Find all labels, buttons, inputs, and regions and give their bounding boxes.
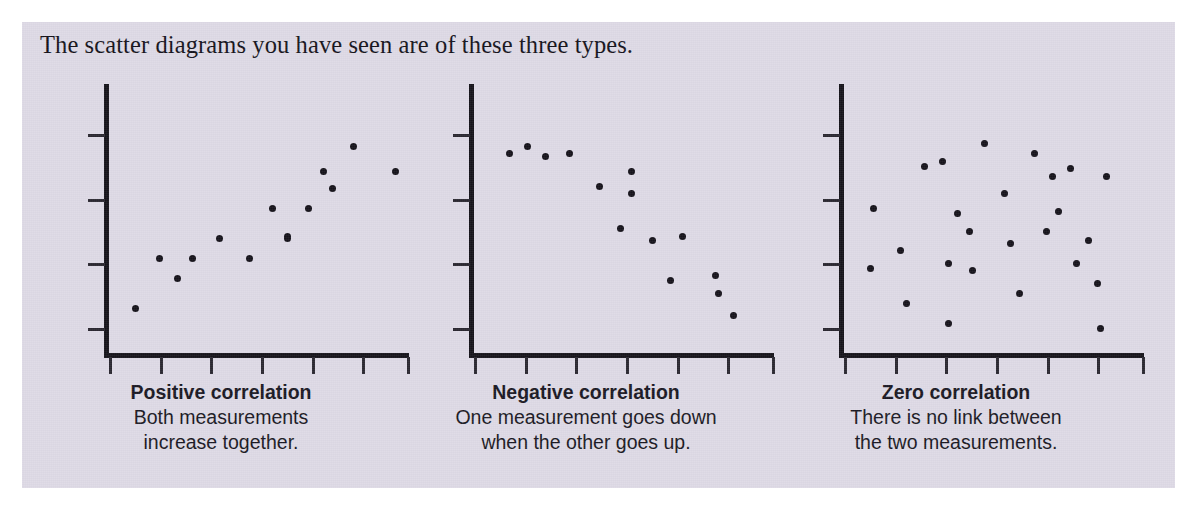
data-point: [596, 183, 603, 190]
data-point: [269, 205, 276, 212]
figure-panel: The scatter diagrams you have seen are o…: [22, 22, 1175, 488]
data-point: [617, 225, 624, 232]
data-point: [730, 312, 737, 319]
data-point: [921, 163, 928, 170]
chart-description-line-2: when the other goes up.: [427, 430, 745, 455]
scatter-plot-negative: [427, 84, 745, 369]
y-axis-tick: [88, 263, 105, 266]
data-point: [1085, 237, 1092, 244]
data-point: [903, 300, 910, 307]
data-point: [1001, 190, 1008, 197]
data-point: [966, 228, 973, 235]
x-axis-tick: [996, 357, 999, 374]
x-axis-tick: [677, 357, 680, 374]
chart-description-line-1: Both measurements: [62, 405, 380, 430]
y-axis: [104, 84, 109, 358]
data-point: [246, 255, 253, 262]
data-point: [542, 153, 549, 160]
data-point: [284, 235, 291, 242]
chart-title: Positive correlation: [62, 380, 380, 405]
x-axis-tick: [1047, 357, 1050, 374]
x-axis-tick: [945, 357, 948, 374]
data-point: [969, 267, 976, 274]
data-point: [679, 233, 686, 240]
data-point: [1016, 290, 1023, 297]
data-point: [524, 143, 531, 150]
scatter-plot-zero: [797, 84, 1115, 369]
y-axis-tick: [88, 328, 105, 331]
data-point: [628, 168, 635, 175]
data-point: [870, 205, 877, 212]
data-point: [320, 168, 327, 175]
x-axis-tick: [626, 357, 629, 374]
data-point: [174, 275, 181, 282]
y-axis-tick: [453, 328, 470, 331]
data-point: [350, 143, 357, 150]
y-axis-tick: [88, 134, 105, 137]
x-axis-tick: [844, 357, 847, 374]
data-point: [189, 255, 196, 262]
chart-block-zero: Zero correlation There is no link betwee…: [797, 84, 1115, 369]
x-axis-tick: [575, 357, 578, 374]
data-point: [156, 255, 163, 262]
data-point: [132, 305, 139, 312]
chart-description-line-1: There is no link between: [797, 405, 1115, 430]
data-point: [305, 205, 312, 212]
x-axis-tick: [1142, 357, 1145, 374]
data-point: [954, 210, 961, 217]
y-axis-tick: [823, 134, 840, 137]
chart-block-negative: Negative correlation One measurement goe…: [427, 84, 745, 369]
chart-title: Zero correlation: [797, 380, 1115, 405]
y-axis-tick: [823, 199, 840, 202]
x-axis-tick: [525, 357, 528, 374]
data-point: [945, 260, 952, 267]
data-point: [1103, 173, 1110, 180]
data-point: [981, 140, 988, 147]
data-point: [628, 190, 635, 197]
chart-block-positive: Positive correlation Both measurements i…: [62, 84, 380, 369]
data-point: [939, 158, 946, 165]
figure-caption: The scatter diagrams you have seen are o…: [40, 31, 633, 59]
data-point: [1055, 208, 1062, 215]
x-axis-tick: [109, 357, 112, 374]
x-axis-tick: [772, 357, 775, 374]
y-axis-tick: [823, 263, 840, 266]
data-point: [867, 265, 874, 272]
data-point: [1031, 150, 1038, 157]
data-point: [329, 185, 336, 192]
data-point: [649, 237, 656, 244]
y-axis-tick: [453, 134, 470, 137]
x-axis-tick: [210, 357, 213, 374]
data-point: [1073, 260, 1080, 267]
data-point: [566, 150, 573, 157]
data-point: [712, 272, 719, 279]
data-point: [1067, 165, 1074, 172]
data-point: [897, 247, 904, 254]
chart-title: Negative correlation: [427, 380, 745, 405]
data-point: [506, 150, 513, 157]
y-axis-tick: [823, 328, 840, 331]
chart-description-line-2: increase together.: [62, 430, 380, 455]
x-axis-tick: [407, 357, 410, 374]
x-axis-tick: [261, 357, 264, 374]
y-axis-tick: [453, 199, 470, 202]
data-point: [1094, 280, 1101, 287]
y-axis-tick: [88, 199, 105, 202]
y-axis-tick: [453, 263, 470, 266]
x-axis-tick: [1097, 357, 1100, 374]
x-axis-tick: [362, 357, 365, 374]
chart-caption-negative: Negative correlation One measurement goe…: [427, 380, 745, 455]
chart-description-line-1: One measurement goes down: [427, 405, 745, 430]
data-point: [715, 290, 722, 297]
data-point: [667, 277, 674, 284]
x-axis-tick: [474, 357, 477, 374]
y-axis: [839, 84, 844, 358]
x-axis-tick: [727, 357, 730, 374]
data-point: [1043, 228, 1050, 235]
chart-description-line-2: the two measurements.: [797, 430, 1115, 455]
data-point: [945, 320, 952, 327]
data-point: [1049, 173, 1056, 180]
chart-caption-positive: Positive correlation Both measurements i…: [62, 380, 380, 455]
data-point: [216, 235, 223, 242]
y-axis: [469, 84, 474, 358]
